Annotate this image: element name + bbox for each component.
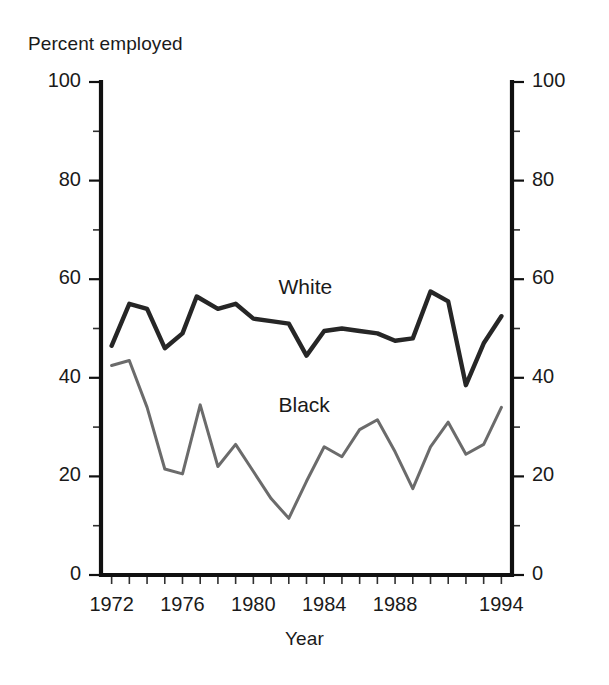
y-ticklabel-right: 0 xyxy=(532,562,604,585)
plot-area xyxy=(0,0,609,685)
x-ticklabel: 1988 xyxy=(350,593,440,616)
chart-figure: Percent employed Year 020406080100 02040… xyxy=(0,0,609,685)
y-ticklabel-right: 40 xyxy=(532,365,604,388)
series-label-white: White xyxy=(279,275,333,299)
axis-frame xyxy=(101,82,512,575)
series-label-black: Black xyxy=(279,393,330,417)
y-ticklabel-left: 80 xyxy=(9,168,81,191)
y-ticklabel-left: 20 xyxy=(9,463,81,486)
x-ticklabel: 1994 xyxy=(456,593,546,616)
tick-marks xyxy=(89,82,524,584)
y-ticklabel-right: 20 xyxy=(532,463,604,486)
y-ticklabel-right: 80 xyxy=(532,168,604,191)
y-ticklabel-right: 60 xyxy=(532,266,604,289)
y-ticklabel-left: 60 xyxy=(9,266,81,289)
y-ticklabel-left: 0 xyxy=(9,562,81,585)
y-ticklabel-right: 100 xyxy=(532,69,604,92)
y-ticklabel-left: 100 xyxy=(9,69,81,92)
y-ticklabel-left: 40 xyxy=(9,365,81,388)
series-line-black xyxy=(112,361,502,519)
series-line-white xyxy=(112,292,502,386)
axis-box xyxy=(101,82,512,575)
